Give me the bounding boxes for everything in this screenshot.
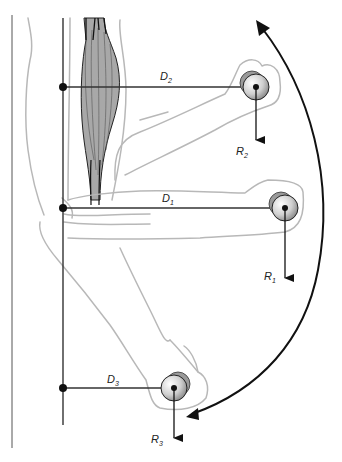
- axis-point-d3: [59, 384, 67, 392]
- axis-point-d2: [59, 83, 67, 91]
- svg-text:D2: D2: [160, 70, 172, 84]
- axis-point-d1: [59, 204, 67, 212]
- arc-arrowhead-bottom: [186, 408, 199, 420]
- arc-arrowhead-top: [256, 20, 270, 36]
- svg-text:D3: D3: [107, 373, 119, 387]
- svg-text:D1: D1: [162, 192, 174, 206]
- svg-text:R3: R3: [151, 433, 163, 447]
- elbow-moment-arm-diagram: D2 D1 D3 R2 R1 R3: [0, 0, 342, 462]
- svg-text:R1: R1: [264, 270, 276, 284]
- weight-r1: R1: [264, 192, 298, 284]
- biceps-muscle: [81, 18, 119, 205]
- svg-text:R2: R2: [236, 145, 248, 159]
- weight-r2: R2: [236, 71, 269, 159]
- moment-arm-d3: D3: [59, 373, 174, 392]
